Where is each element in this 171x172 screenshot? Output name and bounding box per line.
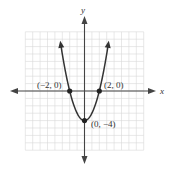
- y-axis-label: y: [80, 5, 85, 15]
- point-marker: [97, 88, 102, 93]
- x-axis-left-arrow-icon: [10, 88, 18, 94]
- x-axis: [10, 88, 156, 94]
- point-label-vertex: (0, −4): [91, 119, 116, 129]
- point-marker: [67, 88, 72, 93]
- y-axis: [82, 16, 88, 164]
- point-label-right: (2, 0): [104, 80, 124, 90]
- curve-right-arrow-icon: [105, 41, 111, 48]
- x-axis-right-arrow-icon: [148, 88, 156, 94]
- y-axis-up-arrow-icon: [82, 16, 88, 24]
- graph: x y (−2, 0) (2, 0) (0, −4): [0, 0, 171, 172]
- point-label-left: (−2, 0): [37, 80, 62, 90]
- point-marker: [82, 118, 87, 123]
- curve-left-arrow-icon: [58, 41, 64, 48]
- y-axis-down-arrow-icon: [82, 156, 88, 164]
- x-axis-label: x: [159, 86, 164, 96]
